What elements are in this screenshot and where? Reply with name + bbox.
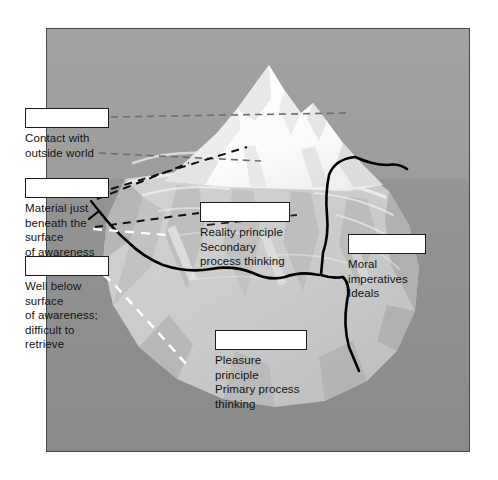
callout-id: Pleasure principle Primary process think… bbox=[215, 330, 307, 411]
callout-text-preconscious: Material just beneath the surface of awa… bbox=[25, 201, 109, 259]
answer-box-unconscious[interactable] bbox=[25, 256, 109, 276]
callout-preconscious: Material just beneath the surface of awa… bbox=[25, 178, 109, 259]
callout-text-unconscious: Well below surface of awareness; difficu… bbox=[25, 279, 109, 352]
callout-unconscious: Well below surface of awareness; difficu… bbox=[25, 256, 109, 352]
callout-text-superego: Moral imperatives Ideals bbox=[348, 257, 426, 301]
callout-text-ego: Reality principle Secondary process thin… bbox=[200, 225, 290, 269]
callout-conscious: Contact with outside world bbox=[25, 108, 109, 160]
page-root: Contact with outside world Material just… bbox=[0, 0, 498, 480]
answer-box-conscious[interactable] bbox=[25, 108, 109, 128]
answer-box-superego[interactable] bbox=[348, 234, 426, 254]
callout-text-conscious: Contact with outside world bbox=[25, 131, 109, 160]
answer-box-ego[interactable] bbox=[200, 202, 290, 222]
callout-ego: Reality principle Secondary process thin… bbox=[200, 202, 290, 269]
answer-box-id[interactable] bbox=[215, 330, 307, 350]
answer-box-preconscious[interactable] bbox=[25, 178, 109, 198]
callout-superego: Moral imperatives Ideals bbox=[348, 234, 426, 301]
callout-text-id: Pleasure principle Primary process think… bbox=[215, 353, 307, 411]
